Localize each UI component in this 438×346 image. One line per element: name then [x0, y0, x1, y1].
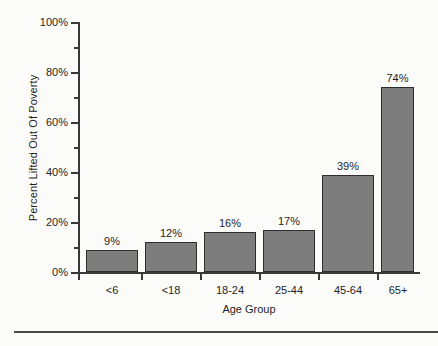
y-minor-tick-10: [74, 247, 78, 249]
bar-age-25-44: [263, 230, 315, 273]
y-tick-label-60: 60%: [22, 117, 68, 128]
x-label-age-18-24: 18-24: [204, 284, 256, 296]
y-minor-tick-90: [74, 47, 78, 49]
y-minor-tick-70: [74, 97, 78, 99]
bar-age-18-24: [204, 232, 256, 272]
y-tick-label-40-text: 40%: [28, 167, 68, 178]
bar-age-65-plus: [381, 87, 414, 272]
y-axis-line: [78, 22, 80, 274]
y-tick-label-20-text: 20%: [28, 217, 68, 228]
x-tick-5: [377, 274, 379, 280]
bar-value-age-18-24: 16%: [204, 218, 256, 229]
x-label-age-under-6: <6: [86, 284, 138, 296]
bar-value-age-45-64: 39%: [322, 161, 374, 172]
y-tick-40: [71, 172, 78, 174]
y-tick-label-100-text: 100%: [28, 17, 68, 28]
y-tick-label-40: 40%: [22, 167, 68, 178]
x-axis-title: Age Group: [78, 303, 420, 316]
x-axis-line: [78, 272, 420, 274]
x-tick-2: [200, 274, 202, 280]
x-tick-3: [259, 274, 261, 280]
bar-value-age-25-44: 17%: [263, 216, 315, 227]
y-tick-60: [71, 122, 78, 124]
y-tick-label-60-text: 60%: [28, 117, 68, 128]
y-tick-label-100: 100%: [22, 17, 68, 28]
bar-value-age-65-plus: 74%: [376, 73, 419, 84]
bar-age-under-18: [145, 242, 197, 272]
bar-age-45-64: [322, 175, 374, 273]
bar-chart-figure: Percent Lifted Out Of Poverty 100% 80% 6…: [0, 0, 438, 346]
footer-divider: [14, 331, 438, 333]
y-axis-title: Percent Lifted Out Of Poverty: [26, 23, 40, 273]
x-label-age-under-18: <18: [145, 284, 197, 296]
x-label-age-25-44: 25-44: [263, 284, 315, 296]
x-tick-0: [78, 274, 80, 280]
y-tick-100: [71, 22, 78, 24]
y-tick-label-80-text: 80%: [28, 67, 68, 78]
x-tick-4: [318, 274, 320, 280]
bar-value-age-under-18: 12%: [145, 228, 197, 239]
x-tick-1: [141, 274, 143, 280]
x-label-age-65-plus: 65+: [378, 284, 418, 296]
y-tick-label-80: 80%: [22, 67, 68, 78]
y-tick-label-20: 20%: [22, 217, 68, 228]
bar-value-age-under-6: 9%: [86, 236, 138, 247]
y-minor-tick-30: [74, 197, 78, 199]
y-tick-20: [71, 222, 78, 224]
y-minor-tick-50: [74, 147, 78, 149]
y-tick-label-0: 0%: [22, 267, 68, 278]
x-label-age-45-64: 45-64: [322, 284, 374, 296]
y-tick-0: [71, 272, 78, 274]
y-tick-label-0-text: 0%: [28, 267, 68, 278]
bar-age-under-6: [86, 250, 138, 273]
y-tick-80: [71, 72, 78, 74]
